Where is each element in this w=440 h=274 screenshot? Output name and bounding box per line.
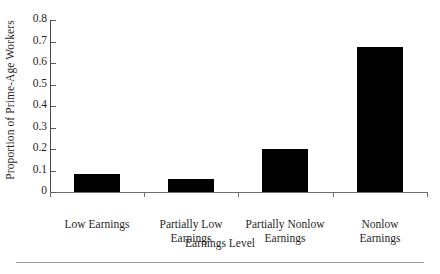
y-tick-label: 0 <box>41 184 47 196</box>
y-tick-0.4: 0.4 <box>4 106 56 107</box>
x-tick-mark <box>238 192 239 197</box>
y-tick-mark <box>51 20 56 21</box>
x-tick-mark <box>333 192 334 197</box>
bar-partially-low-earnings <box>168 179 214 192</box>
y-tick-label: 0.6 <box>33 55 47 67</box>
plot-area: 0.8 0.7 0.6 0.5 0.4 0.3 0.2 0.1 <box>50 20 428 192</box>
x-category-line-1: Partially Low <box>143 218 239 232</box>
y-tick-label: 0.4 <box>33 98 47 110</box>
y-tick-label: 0.5 <box>33 77 47 89</box>
y-tick-0.2: 0.2 <box>4 149 56 150</box>
x-tick-mark <box>50 192 51 197</box>
y-tick-label: 0.3 <box>33 120 47 132</box>
x-category-line-1: Nonlow <box>332 218 428 232</box>
bar-partially-nonlow-earnings <box>262 149 308 192</box>
x-axis-title: Earnings Level <box>0 237 440 249</box>
y-axis-title-text: Proportion of Prime-Age Workers <box>4 20 16 179</box>
y-tick-mark <box>51 128 56 129</box>
bar-nonlow-earnings <box>357 47 403 192</box>
y-tick-0.6: 0.6 <box>4 63 56 64</box>
y-tick-mark <box>51 149 56 150</box>
y-tick-mark <box>51 63 56 64</box>
x-category-line-1: Partially Nonlow <box>237 218 333 232</box>
bar-low-earnings <box>74 174 120 192</box>
y-tick-0.7: 0.7 <box>4 42 56 43</box>
bar-chart-figure: Proportion of Prime-Age Workers 0.8 0.7 … <box>0 0 440 274</box>
y-tick-0.8: 0.8 <box>4 20 56 21</box>
y-tick-0: 0 <box>4 192 56 193</box>
y-tick-mark <box>51 85 56 86</box>
y-tick-0.1: 0.1 <box>4 171 56 172</box>
y-tick-mark <box>51 171 56 172</box>
x-category-label-low-earnings: Low Earnings <box>49 218 145 232</box>
y-tick-label: 0.8 <box>33 12 47 24</box>
bottom-divider <box>16 262 424 263</box>
y-tick-0.3: 0.3 <box>4 128 56 129</box>
x-tick-mark <box>427 192 428 197</box>
y-tick-label: 0.7 <box>33 34 47 46</box>
x-axis-spine <box>50 192 428 193</box>
y-tick-label: 0.1 <box>33 163 47 175</box>
y-tick-mark <box>51 42 56 43</box>
x-tick-mark <box>144 192 145 197</box>
y-tick-label: 0.2 <box>33 141 47 153</box>
y-tick-0.5: 0.5 <box>4 85 56 86</box>
y-tick-mark <box>51 106 56 107</box>
x-category-line-1: Low Earnings <box>49 218 145 232</box>
y-tick-mark <box>51 192 56 193</box>
